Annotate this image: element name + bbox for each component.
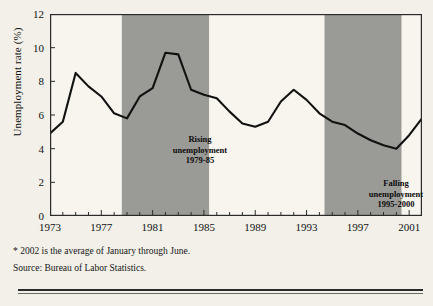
band-label-falling: Falling unemployment 1995-2000 bbox=[350, 178, 433, 210]
x-tick-label-1977: 1977 bbox=[81, 221, 121, 234]
source-line: Source: Bureau of Labor Statistics. bbox=[13, 260, 413, 277]
bottom-rule-thick bbox=[18, 289, 423, 291]
band-label-falling-line3: 1995-2000 bbox=[350, 199, 433, 210]
y-tick-label-2: 2 bbox=[20, 177, 44, 187]
y-tick-label-12: 12 bbox=[20, 9, 44, 19]
unemployment-rate-figure: 024681012 Unemployment rate (%) Rising u… bbox=[0, 0, 433, 306]
x-tick-label-2001: 2001 bbox=[389, 221, 429, 234]
y-tick-label-8: 8 bbox=[20, 76, 44, 86]
x-tick-label-1997: 1997 bbox=[338, 221, 378, 234]
band-label-falling-line1: Falling bbox=[350, 178, 433, 189]
plot-area: Rising unemployment 1979-85 Falling unem… bbox=[50, 14, 422, 216]
y-tick-label-4: 4 bbox=[20, 144, 44, 154]
y-axis-title: Unemployment rate (%) bbox=[11, 0, 23, 177]
y-tick-label-0: 0 bbox=[20, 211, 44, 221]
figure-notes: * 2002 is the average of January through… bbox=[13, 243, 413, 277]
x-tick-label-1993: 1993 bbox=[287, 221, 327, 234]
y-tick-label-6: 6 bbox=[20, 110, 44, 120]
y-tick-label-10: 10 bbox=[20, 43, 44, 53]
band-label-rising-line2: unemployment bbox=[158, 145, 242, 156]
band-label-rising: Rising unemployment 1979-85 bbox=[158, 134, 242, 166]
x-tick-label-1981: 1981 bbox=[133, 221, 173, 234]
band-label-rising-line1: Rising bbox=[158, 134, 242, 145]
band-label-falling-line2: unemployment bbox=[350, 189, 433, 200]
footnote-line: * 2002 is the average of January through… bbox=[13, 243, 413, 260]
x-tick-label-1973: 1973 bbox=[30, 221, 70, 234]
band-label-rising-line3: 1979-85 bbox=[158, 155, 242, 166]
bottom-rule-thin bbox=[18, 293, 423, 294]
x-tick-label-1985: 1985 bbox=[184, 221, 224, 234]
x-tick-label-1989: 1989 bbox=[235, 221, 275, 234]
rising-unemployment-band bbox=[122, 14, 209, 216]
x-axis-tick-labels: 19731977198119851989199319972001 bbox=[50, 221, 422, 237]
